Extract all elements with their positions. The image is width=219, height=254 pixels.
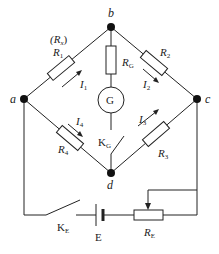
- resistor-r3: [142, 121, 169, 146]
- label-rx: (Rx): [50, 33, 68, 47]
- label-ke: KE: [57, 221, 69, 235]
- label-r2: R2: [159, 46, 171, 60]
- label-galvanometer: G: [106, 94, 114, 106]
- node-label-a: a: [10, 92, 16, 106]
- label-re: RE: [143, 226, 155, 240]
- resistor-rg: [106, 46, 116, 74]
- label-battery-e: E: [95, 231, 102, 243]
- node-label-b: b: [108, 6, 114, 20]
- label-r4: R4: [57, 143, 69, 157]
- rheostat-slider-arrow[interactable]: [145, 203, 151, 210]
- node-label-d: d: [107, 178, 114, 192]
- label-i4: I4: [75, 115, 84, 129]
- arm-a-b: [24, 27, 111, 99]
- node-label-c: c: [205, 92, 211, 106]
- wheatstone-bridge-diagram: a b c d (Rx) R1 R2 R3 R4 RG RE I1 I2 I3 …: [0, 0, 219, 254]
- node-b: [107, 23, 115, 31]
- switch-kg-lever[interactable]: [111, 136, 124, 154]
- label-rg: RG: [121, 56, 134, 70]
- node-d: [107, 169, 115, 177]
- label-kg: KG: [98, 136, 111, 150]
- label-i1: I1: [79, 78, 88, 92]
- current-arrow-i1: [62, 70, 82, 87]
- rheostat-re[interactable]: [134, 210, 163, 220]
- node-a: [20, 95, 28, 103]
- switch-ke-lever[interactable]: [46, 200, 80, 215]
- label-r3: R3: [157, 147, 169, 161]
- label-i3: I3: [138, 113, 147, 127]
- node-c: [193, 95, 201, 103]
- label-i2: I2: [142, 78, 151, 92]
- label-r1: R1: [52, 46, 64, 60]
